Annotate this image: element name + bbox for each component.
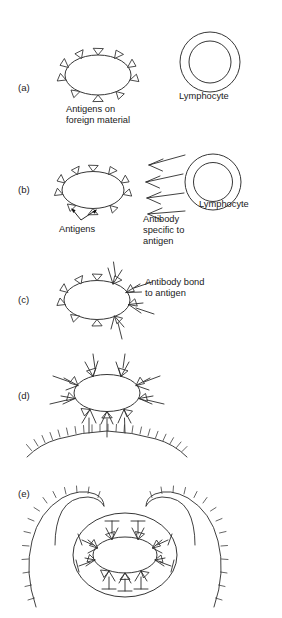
label-antibody-specific-line2: specific to [143, 225, 184, 235]
label-lymphocyte-b: Lymphocyte [199, 199, 249, 209]
panel-e: (e) [18, 486, 228, 607]
foreign-material-c [57, 262, 154, 339]
antibody [111, 316, 124, 339]
panel-b-letter: (b) [18, 184, 30, 195]
foreign-material-body [74, 375, 140, 412]
panel-a-letter: (a) [18, 82, 30, 93]
foreign-material-body [62, 172, 124, 209]
foreign-material-body [65, 55, 131, 95]
lymphocyte-nucleus [189, 41, 231, 83]
foreign-material-body [93, 537, 157, 573]
panel-d-letter: (d) [18, 390, 30, 401]
foreign-material-d [50, 354, 164, 437]
label-antigens-on-foreign-material-line1: Antigens on [66, 104, 115, 114]
antibody [149, 155, 185, 171]
label-antibody-specific-line1: Antibody [143, 214, 180, 224]
antibody [147, 192, 184, 204]
antibody [146, 174, 183, 188]
label-antigens-b: Antigens [59, 224, 96, 234]
label-antibody-bond-line1: Antibody bond [145, 277, 204, 287]
figure-root: (a) Antigens on foreign material [0, 0, 282, 618]
foreign-material-body [64, 281, 130, 320]
label-lymphocyte-a: Lymphocyte [179, 91, 229, 101]
foreign-material-a [57, 48, 139, 101]
panel-c-letter: (c) [18, 294, 29, 305]
label-antibody-specific-line3: antigen [143, 236, 174, 246]
immunity-diagram: (a) Antigens on foreign material [0, 0, 282, 618]
foreign-material-b [54, 165, 131, 215]
panel-b: (b) [18, 154, 249, 246]
label-antibody-bond-line2: to antigen [145, 288, 186, 298]
label-antigens-on-foreign-material-line2: foreign material [66, 115, 130, 125]
panel-c: (c) [18, 262, 204, 339]
panel-d: (d) [18, 354, 187, 457]
lymphocyte-a [180, 32, 240, 92]
antibody [85, 354, 98, 377]
antibody [116, 354, 129, 377]
lymphocyte-nucleus [194, 163, 233, 202]
panel-a: (a) Antigens on foreign material [18, 32, 240, 125]
free-antibodies-b [146, 155, 185, 220]
panel-e-letter: (e) [18, 488, 30, 499]
